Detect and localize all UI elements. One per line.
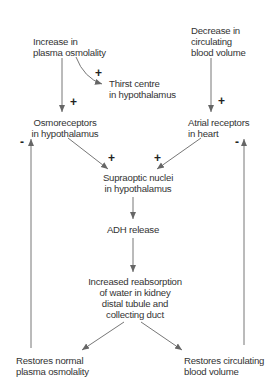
node-osmoreceptors: Osmoreceptors in hypothalamus — [30, 117, 100, 139]
node-thirst-centre: Thirst centre in hypothalamus — [109, 78, 176, 100]
node-blood-volume: Decrease in circulating blood volume — [191, 25, 246, 58]
node-adh-release: ADH release — [93, 224, 173, 235]
minus-sign-right: - — [235, 136, 239, 148]
node-reabsorption: Increased reabsorption of water in kidne… — [80, 276, 190, 320]
plus-sign-supraoptic-left: + — [108, 152, 115, 164]
arrow-reabsorption-to-restore-osmolality — [82, 322, 124, 350]
arrows-layer — [0, 0, 274, 392]
arrow-reabsorption-to-restore-volume — [141, 322, 182, 350]
arrow-atrial-to-supraoptic — [157, 138, 201, 169]
minus-sign-left: - — [20, 136, 24, 148]
node-supraoptic-nuclei: Supraoptic nuclei in hypothalamus — [93, 172, 183, 194]
node-plasma-osmolality: Increase in plasma osmolality — [33, 36, 106, 58]
plus-sign-supraoptic-right: + — [154, 152, 161, 164]
plus-sign-atrial: + — [218, 95, 225, 107]
plus-sign-osmoreceptors: + — [70, 96, 77, 108]
node-atrial-receptors: Atrial receptors in heart — [188, 117, 249, 139]
node-restore-volume: Restores circulating blood volume — [184, 355, 264, 377]
arrow-osmoreceptors-to-supraoptic — [68, 138, 108, 169]
node-restore-osmolality: Restores normal plasma osmolality — [16, 355, 89, 377]
plus-sign-thirst: + — [95, 67, 102, 79]
